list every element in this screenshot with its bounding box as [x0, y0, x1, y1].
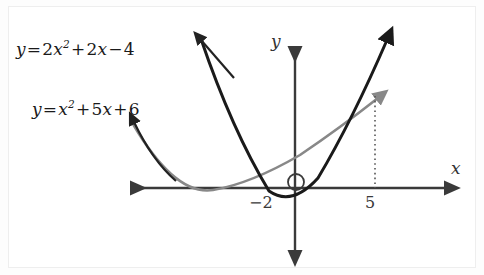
eq1-const: 4 [124, 39, 135, 59]
pointer-to-black-curve [201, 40, 234, 78]
eq1-coef-a: 2 [42, 39, 53, 59]
eq1-var2: x [97, 39, 107, 59]
eq2-equals: = [42, 99, 58, 119]
eq1-var: x [53, 39, 63, 59]
x-axis-label: x [451, 158, 461, 178]
eq1-op1: + [70, 39, 86, 59]
eq2-var: x [58, 99, 68, 119]
eq2-op2: + [112, 99, 128, 119]
figure-root: y=2x2+2x−4 y=x2+5x+6 x y −2 5 [0, 0, 484, 275]
equation-label-black-curve: y=2x2+2x−4 [16, 38, 135, 59]
eq2-exponent: 2 [68, 98, 75, 110]
eq2-op1: + [75, 99, 91, 119]
tick-label-negative-two: −2 [249, 193, 273, 212]
tick-label-five: 5 [365, 193, 375, 212]
eq2-var2: x [102, 99, 112, 119]
eq1-coef-b: 2 [86, 39, 97, 59]
y-axis-label: y [271, 31, 281, 51]
eq1-lhs: y [16, 39, 26, 59]
eq1-equals: = [26, 39, 42, 59]
equation-label-gray-curve: y=x2+5x+6 [32, 98, 140, 119]
eq1-op2: − [107, 39, 123, 59]
eq1-exponent: 2 [63, 38, 70, 50]
eq2-coef-b: 5 [91, 99, 102, 119]
eq2-lhs: y [32, 99, 42, 119]
eq2-const: 6 [129, 99, 140, 119]
